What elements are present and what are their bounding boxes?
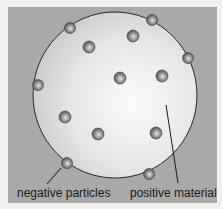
label-negative-particles: negative particles [17,186,110,200]
label-positive-material: positive material [130,186,217,200]
diagram-canvas [0,0,222,209]
positive-sphere [33,12,197,178]
negative-particle [156,70,168,82]
negative-particle [183,53,194,64]
negative-particle [83,41,95,53]
negative-particle [144,169,155,180]
negative-particle [127,30,139,42]
negative-particle [92,128,104,140]
negative-particle [62,158,73,169]
negative-particle [114,72,126,84]
negative-particle [147,15,158,26]
negative-particle [150,127,162,139]
negative-particle [59,111,71,123]
negative-particle [33,80,44,91]
leader-line-negative [47,168,61,184]
negative-particle [65,23,76,34]
plum-pudding-diagram: negative particles positive material [0,0,222,209]
